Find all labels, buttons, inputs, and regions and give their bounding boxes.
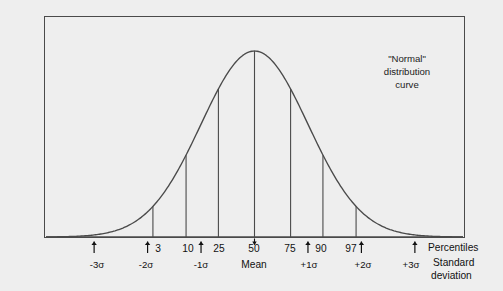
- sigma-arrow-head-+2σ: [359, 242, 364, 245]
- curve-annotation: "Normal" distribution curve: [370, 53, 444, 92]
- sigma-arrow-head--3σ: [91, 242, 96, 245]
- percentile-label-97: 97: [345, 243, 356, 254]
- curve-annotation-line3: curve: [370, 79, 444, 92]
- sigma-label-plus-1: +1σ: [301, 259, 318, 270]
- sigma-arrow-head--1σ: [198, 242, 203, 245]
- standard-deviation-caption-line1: Standard: [433, 256, 474, 269]
- percentile-label-75: 75: [284, 243, 295, 254]
- sigma-label-minus-3: -3σ: [90, 259, 104, 270]
- figure-canvas: "Normal" distribution curve 3 10 25 50 7…: [0, 0, 503, 291]
- sigma-label-plus-2: +2σ: [355, 259, 372, 270]
- sigma-arrow-head-+1σ: [305, 242, 310, 245]
- sigma-arrow-head-+3σ: [412, 242, 417, 245]
- sigma-label-minus-1: -1σ: [194, 259, 208, 270]
- percentile-label-25: 25: [213, 243, 224, 254]
- curve-annotation-line1: "Normal": [370, 53, 444, 66]
- percentile-label-3: 3: [155, 243, 161, 254]
- sigma-arrow-head--2σ: [145, 242, 150, 245]
- percentile-label-50: 50: [248, 243, 259, 254]
- mean-label: Mean: [241, 259, 266, 270]
- sigma-label-minus-2: -2σ: [139, 259, 153, 270]
- percentile-label-90: 90: [315, 243, 326, 254]
- curve-annotation-line2: distribution: [370, 66, 444, 79]
- percentiles-caption: Percentiles: [428, 241, 478, 254]
- sigma-label-plus-3: +3σ: [403, 259, 420, 270]
- percentile-label-10: 10: [182, 243, 193, 254]
- standard-deviation-caption-line2: deviation: [431, 269, 472, 282]
